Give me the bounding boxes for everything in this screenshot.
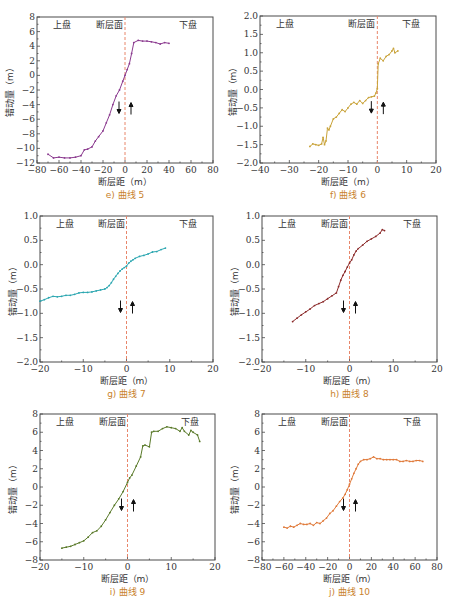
data-point	[309, 146, 311, 148]
data-point	[137, 39, 139, 41]
y-tick-label: −0.5	[238, 284, 260, 294]
y-tick-label: 2.0	[244, 11, 259, 21]
data-series-line	[293, 230, 385, 322]
data-point	[283, 526, 285, 528]
down-arrow-head-icon	[342, 507, 346, 511]
data-point	[370, 238, 372, 240]
data-point	[412, 461, 414, 463]
data-point	[151, 431, 153, 433]
data-point	[312, 143, 314, 145]
data-point	[357, 248, 359, 250]
data-point	[386, 459, 388, 461]
data-point	[366, 459, 368, 461]
data-point	[351, 259, 353, 261]
data-point	[56, 296, 58, 298]
data-point	[335, 505, 337, 507]
data-point	[316, 522, 318, 524]
x-tick-label: 80	[207, 165, 219, 175]
data-point	[131, 53, 133, 55]
data-point	[363, 459, 365, 461]
y-tick-label: −0.5	[236, 103, 258, 113]
data-point	[74, 293, 76, 295]
data-point	[344, 493, 346, 495]
data-point	[83, 540, 85, 542]
data-point	[128, 262, 130, 264]
data-point	[142, 40, 144, 42]
data-point	[381, 229, 383, 231]
subplot-caption: g) 曲线 7	[107, 388, 146, 399]
subplot-i: −20−1001020−8−6−4−202468上盘断层面下盘断层距（m）错动量…	[7, 409, 221, 597]
data-point	[373, 456, 375, 458]
data-point	[383, 459, 385, 461]
y-tick-label: 8	[254, 409, 260, 419]
data-point	[389, 459, 391, 461]
data-point	[151, 41, 153, 43]
data-point	[318, 144, 320, 146]
x-tick-label: −40	[72, 165, 91, 175]
data-point	[326, 517, 328, 519]
y-axis-label: 错动量（m）	[7, 262, 18, 316]
data-point	[78, 292, 80, 294]
up-arrow-head-icon	[129, 103, 133, 107]
data-point	[327, 298, 329, 300]
data-point	[375, 92, 377, 94]
y-tick-label: −8	[22, 129, 36, 139]
data-point	[119, 270, 121, 272]
data-point	[359, 100, 361, 102]
data-point	[142, 445, 144, 447]
data-point	[144, 444, 146, 446]
up-arrow-head-icon	[354, 302, 358, 306]
data-point	[153, 430, 155, 432]
data-point	[368, 97, 370, 99]
data-point	[199, 440, 201, 442]
data-point	[133, 42, 135, 44]
data-point	[152, 251, 154, 253]
data-point	[347, 107, 349, 109]
data-point	[129, 63, 131, 65]
data-point	[293, 526, 295, 528]
data-point	[115, 95, 117, 97]
data-point	[98, 136, 100, 138]
data-point	[355, 468, 357, 470]
data-point	[362, 244, 364, 246]
data-point	[296, 524, 298, 526]
y-tick-label: −2.0	[16, 357, 38, 367]
data-series-line	[62, 427, 200, 548]
down-arrow-head-icon	[120, 507, 124, 511]
x-tick-label: 10	[166, 562, 178, 572]
data-point	[110, 282, 112, 284]
data-point	[349, 262, 351, 264]
data-point	[123, 267, 125, 269]
footwall-label: 下盘	[179, 218, 197, 229]
data-point	[108, 285, 110, 287]
data-point	[355, 250, 357, 252]
data-series-line	[310, 48, 398, 146]
data-point	[392, 459, 394, 461]
data-point	[91, 146, 93, 148]
data-point	[340, 279, 342, 281]
y-tick-label: 0.5	[24, 235, 39, 245]
data-point	[69, 157, 71, 159]
data-point	[402, 461, 404, 463]
x-tick-label: −20	[94, 165, 113, 175]
footwall-label: 下盘	[181, 416, 199, 427]
data-point	[166, 426, 168, 428]
data-point	[292, 321, 294, 323]
x-tick-label: 20	[431, 364, 443, 374]
data-point	[341, 109, 343, 111]
data-point	[306, 524, 308, 526]
data-point	[353, 101, 355, 103]
data-point	[349, 483, 351, 485]
data-point	[52, 295, 54, 297]
x-tick-label: 40	[163, 165, 175, 175]
x-tick-label: −20	[309, 165, 328, 175]
data-point	[396, 459, 398, 461]
data-point	[39, 300, 41, 302]
data-point	[332, 118, 334, 120]
data-point	[61, 547, 63, 549]
data-point	[415, 460, 417, 462]
data-point	[313, 524, 315, 526]
data-point	[96, 530, 98, 532]
up-arrow-head-icon	[131, 302, 135, 306]
data-point	[377, 63, 379, 65]
